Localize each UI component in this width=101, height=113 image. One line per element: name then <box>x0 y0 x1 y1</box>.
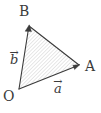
vector-triangle-figure: B A O → b → a <box>0 0 101 113</box>
point-label-b: B <box>19 4 29 18</box>
vector-label-a: → a <box>54 82 62 95</box>
vector-b-arrowhead <box>25 25 31 32</box>
vector-label-b: → b <box>10 53 18 66</box>
point-label-a: A <box>85 59 95 73</box>
vector-arrow-accent-b: → <box>10 47 19 58</box>
vector-arrow-accent-a: → <box>53 76 62 87</box>
vector-a-arrowhead <box>73 65 80 70</box>
point-label-o: O <box>3 89 14 103</box>
